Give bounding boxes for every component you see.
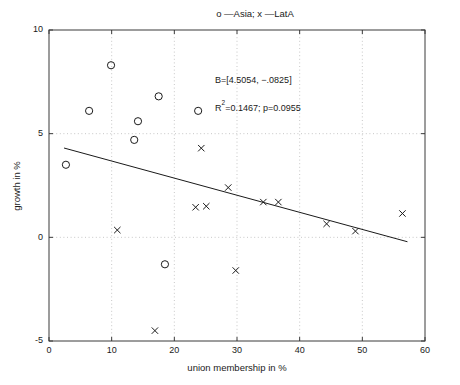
data-point-lata: [399, 210, 405, 216]
y-axis-title: growth in %: [11, 161, 22, 211]
data-point-asia: [131, 136, 138, 143]
data-point-asia: [161, 261, 168, 268]
scatter-plot: 0102030405060 -50510 o —Asia; x —LatA un…: [0, 0, 460, 385]
data-point-lata: [198, 145, 204, 151]
figure-container: 0102030405060 -50510 o —Asia; x —LatA un…: [0, 0, 460, 385]
data-point-asia: [86, 107, 93, 114]
x-tick-label: 20: [169, 345, 179, 355]
x-axis-title: union membership in %: [187, 362, 287, 373]
data-point-asia: [155, 93, 162, 100]
data-point-asia: [195, 107, 202, 114]
annotation-coefficients: B=[4.5054, −.0825]: [215, 75, 292, 85]
x-tick-labels: 0102030405060: [46, 345, 430, 355]
plot-title: o —Asia; x —LatA: [216, 8, 294, 19]
data-point-lata: [114, 227, 120, 233]
data-point-lata: [323, 221, 329, 227]
data-point-lata: [192, 204, 198, 210]
data-point-asia: [107, 62, 114, 69]
x-tick-label: 60: [420, 345, 430, 355]
data-point-asia: [62, 161, 69, 168]
x-tick-label: 40: [295, 345, 305, 355]
y-tick-label: -5: [35, 335, 43, 345]
annotation-fit-statistics: R2=0.1467; p=0.0955: [215, 98, 301, 113]
x-tick-label: 50: [357, 345, 367, 355]
y-tick-label: 5: [38, 128, 43, 138]
annotations: B=[4.5054, −.0825]R2=0.1467; p=0.0955: [215, 75, 301, 113]
data-point-lata: [233, 267, 239, 273]
x-tick-label: 30: [232, 345, 242, 355]
data-point-lata: [225, 184, 231, 190]
data-point-lata: [152, 327, 158, 333]
data-point-lata: [275, 199, 281, 205]
x-tick-label: 0: [46, 345, 51, 355]
data-point-lata: [352, 228, 358, 234]
y-tick-labels: -50510: [33, 24, 43, 345]
y-tick-label: 0: [38, 232, 43, 242]
x-tick-label: 10: [107, 345, 117, 355]
data-point-asia: [134, 118, 141, 125]
y-tick-label: 10: [33, 24, 43, 34]
data-point-lata: [203, 203, 209, 209]
